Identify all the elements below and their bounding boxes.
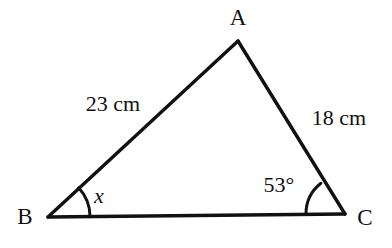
side-label-ab: 23 cm [86,93,140,115]
vertex-label-b: B [17,205,32,228]
angle-arc-b [79,188,90,217]
side-ab-line [48,41,238,217]
angle-arc-c [306,183,321,214]
side-bc-line [48,214,345,217]
angle-label-c: 53° [264,174,295,196]
triangle-figure: A B C 23 cm 18 cm x 53° [0,0,392,248]
angle-label-b: x [94,185,104,207]
vertex-label-c: C [357,206,372,229]
vertex-label-a: A [230,6,247,29]
side-label-ac: 18 cm [312,107,366,129]
